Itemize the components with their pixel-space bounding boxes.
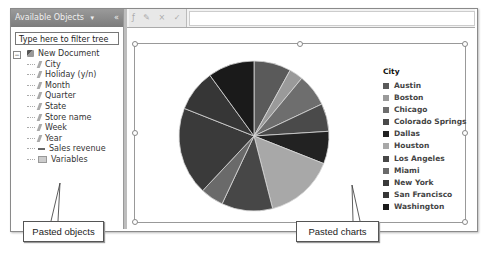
dimension-icon [37, 82, 43, 89]
legend-label: Houston [394, 141, 429, 150]
tree-item-label: Sales revenue [49, 144, 106, 153]
dimension-icon [37, 92, 43, 99]
object-tree: −New DocumentCityHoliday (y/n)MonthQuart… [13, 49, 106, 166]
legend-swatch [383, 95, 389, 101]
legend-label: Dallas [394, 129, 420, 138]
legend-item: Austin [383, 80, 466, 92]
legend-swatch [383, 131, 389, 137]
tree-connector [27, 148, 35, 149]
legend-swatch [383, 143, 389, 149]
chart-legend: City AustinBostonChicagoColorado Springs… [383, 67, 466, 213]
tree-connector [27, 64, 35, 65]
tree-item-label: Year [45, 134, 62, 143]
legend-item: Los Angeles [383, 153, 466, 165]
legend-swatch [383, 180, 389, 186]
tree-item-label: Holiday (y/n) [45, 70, 96, 79]
resize-handle-tr[interactable] [462, 41, 468, 47]
legend-item: New York [383, 177, 466, 189]
dimension-icon [37, 61, 43, 68]
legend-item: Boston [383, 92, 466, 104]
dimension-icon [37, 103, 43, 110]
resize-handle-br[interactable] [462, 219, 468, 225]
legend-label: New York [394, 178, 434, 187]
collapse-icon[interactable]: − [13, 51, 21, 59]
tree-connector [27, 138, 35, 139]
legend-swatch [383, 168, 389, 174]
tree-item-label: Week [45, 123, 67, 132]
tree-item-label: Variables [51, 155, 88, 164]
callout-pasted-charts: Pasted charts [296, 221, 379, 242]
legend-title: City [383, 67, 466, 77]
tree-item[interactable]: Variables [13, 155, 106, 166]
tree-connector [27, 106, 35, 107]
dimension-icon [37, 71, 43, 78]
legend-label: Washington [394, 202, 444, 211]
panel-menu-icon[interactable]: ▾ [91, 14, 95, 22]
legend-item: San Francisco [383, 189, 466, 201]
dimension-icon [37, 135, 43, 142]
legend-item: Dallas [383, 128, 466, 140]
tree-item[interactable]: Holiday (y/n) [13, 70, 106, 81]
panel-header: Available Objects ▾ « [11, 9, 123, 27]
available-objects-panel: Available Objects ▾ « Type here to filte… [11, 9, 124, 229]
tree-connector [27, 159, 35, 160]
formula-toolbar-icons[interactable]: ƒ ✎ × ✓ [129, 9, 187, 27]
tree-connector [27, 85, 35, 86]
resize-handle-bl[interactable] [132, 219, 138, 225]
legend-swatch [383, 192, 389, 198]
legend-swatch [383, 119, 389, 125]
legend-label: Chicago [394, 105, 427, 114]
tree-item-label: New Document [38, 49, 99, 58]
legend-label: Colorado Springs [394, 117, 466, 126]
tree-item[interactable]: Sales revenue [13, 144, 106, 155]
document-icon [27, 50, 34, 57]
panel-splitter[interactable] [123, 9, 127, 229]
formula-toolbar: ƒ ✎ × ✓ [127, 9, 475, 28]
filter-tree-input[interactable]: Type here to filter tree [15, 32, 119, 45]
tree-item-label: Store name [45, 113, 91, 122]
legend-label: Boston [394, 93, 423, 102]
legend-swatch [383, 107, 389, 113]
callout-pasted-objects: Pasted objects [23, 221, 104, 242]
legend-label: Miami [394, 166, 419, 175]
measure-icon [38, 148, 45, 150]
tree-item[interactable]: Month [13, 81, 106, 92]
legend-swatch [383, 156, 389, 162]
tree-root-new-document[interactable]: −New Document [13, 49, 106, 60]
folder-icon [38, 156, 47, 163]
tree-item[interactable]: City [13, 60, 106, 71]
tree-item[interactable]: Quarter [13, 91, 106, 102]
legend-label: Austin [394, 81, 421, 90]
tree-item-label: City [45, 60, 61, 69]
tree-item[interactable]: Year [13, 134, 106, 145]
legend-item: Houston [383, 140, 466, 152]
legend-item: Chicago [383, 104, 466, 116]
tree-connector [27, 74, 35, 75]
resize-handle-tl[interactable] [132, 41, 138, 47]
legend-swatch [383, 204, 389, 210]
tree-item[interactable]: Week [13, 123, 106, 134]
tree-connector [27, 117, 35, 118]
legend-item: Colorado Springs [383, 116, 466, 128]
legend-swatch [383, 83, 389, 89]
resize-handle-tm[interactable] [297, 41, 303, 47]
dimension-icon [37, 124, 43, 131]
formula-input[interactable] [189, 11, 475, 26]
tree-item-label: Month [45, 81, 70, 90]
collapse-panel-icon[interactable]: « [114, 9, 119, 27]
legend-label: San Francisco [394, 190, 452, 199]
resize-handle-ml[interactable] [132, 130, 138, 136]
legend-item: Miami [383, 165, 466, 177]
tree-item[interactable]: State [13, 102, 106, 113]
tree-item-label: State [45, 102, 66, 111]
pie-chart[interactable] [177, 59, 331, 213]
legend-item: Washington [383, 201, 466, 213]
tree-item-label: Quarter [45, 91, 76, 100]
tree-item[interactable]: Store name [13, 113, 106, 124]
panel-title: Available Objects [15, 13, 84, 22]
dimension-icon [37, 114, 43, 121]
tree-connector [27, 127, 35, 128]
tree-connector [27, 95, 35, 96]
legend-label: Los Angeles [394, 154, 445, 163]
